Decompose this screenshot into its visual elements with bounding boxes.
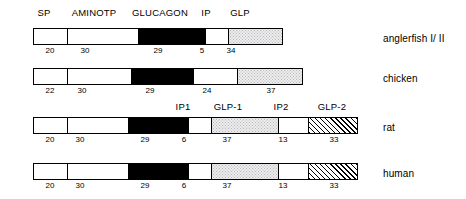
bar-rat (33, 117, 358, 134)
segment-aminotp (68, 164, 130, 179)
segment-glucagon (129, 118, 189, 133)
bar-chicken (33, 68, 303, 85)
count-anglerfish-glucagon: 29 (136, 46, 180, 55)
count-rat-glp1: 37 (205, 135, 249, 144)
count-chicken-ip: 24 (185, 86, 229, 95)
segment-glp (238, 69, 302, 84)
segment-sp (34, 69, 68, 84)
segment-ip1 (189, 164, 212, 179)
species-label-chicken: chicken (383, 73, 418, 85)
count-rat-glucagon: 29 (123, 135, 167, 144)
header-label-sp: SP (22, 7, 66, 18)
count-rat-glp2: 33 (312, 135, 356, 144)
proglucagon-domain-figure: SP AMINOTP GLUCAGON IP GLP 20 30 29 5 34… (0, 0, 466, 199)
count-human-ip1: 6 (170, 181, 198, 190)
header-label-glp: GLP (216, 7, 264, 18)
segment-glp1 (212, 118, 279, 133)
count-human-aminotp: 30 (58, 181, 102, 190)
count-rat-ip2: 13 (268, 135, 298, 144)
count-rat-ip1: 6 (170, 135, 198, 144)
count-human-glucagon: 29 (123, 181, 167, 190)
bar-anglerfish (33, 28, 283, 45)
count-anglerfish-aminotp: 30 (63, 46, 107, 55)
segment-ip (194, 69, 239, 84)
count-anglerfish-glp: 34 (209, 46, 253, 55)
header-label-glp2: GLP-2 (303, 101, 361, 112)
segment-glucagon (132, 69, 194, 84)
header-label-glucagon: GLUCAGON (124, 7, 196, 18)
header-label-aminotp: AMINOTP (62, 7, 126, 18)
count-chicken-glucagon: 29 (128, 86, 172, 95)
segment-sp (34, 164, 68, 179)
count-human-glp2: 33 (312, 181, 356, 190)
count-human-ip2: 13 (268, 181, 298, 190)
count-chicken-glp: 37 (249, 86, 293, 95)
segment-glp1 (212, 164, 279, 179)
segment-glucagon (139, 29, 206, 44)
segment-glp2 (309, 164, 357, 179)
header-label-glp1: GLP-1 (198, 101, 258, 112)
header-label-ip1: IP1 (167, 101, 199, 112)
segment-ip2 (279, 164, 310, 179)
segment-aminotp (68, 69, 133, 84)
count-rat-aminotp: 30 (58, 135, 102, 144)
header-label-ip2: IP2 (264, 101, 298, 112)
species-label-anglerfish: anglerfish I/ II (383, 33, 445, 45)
segment-sp (34, 118, 68, 133)
count-human-glp1: 37 (205, 181, 249, 190)
segment-glp (229, 29, 282, 44)
segment-ip (206, 29, 229, 44)
bar-human (33, 163, 358, 180)
segment-glp2 (309, 118, 357, 133)
segment-sp (34, 29, 68, 44)
segment-glucagon (129, 164, 189, 179)
segment-ip2 (279, 118, 310, 133)
count-chicken-aminotp: 30 (60, 86, 104, 95)
segment-aminotp (68, 29, 139, 44)
species-label-rat: rat (383, 122, 395, 134)
species-label-human: human (383, 168, 414, 180)
segment-aminotp (68, 118, 130, 133)
segment-ip1 (189, 118, 212, 133)
